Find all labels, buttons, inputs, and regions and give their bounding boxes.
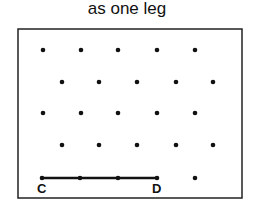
grid-dot (79, 111, 84, 116)
grid-dot (41, 48, 46, 53)
grid-dot (97, 80, 102, 85)
grid-frame (18, 29, 242, 198)
grid-dot (155, 48, 160, 53)
grid-dot (79, 48, 84, 53)
grid-dot (174, 80, 179, 85)
label-c: C (37, 181, 47, 196)
grid-dot (41, 111, 46, 116)
grid-dot (135, 80, 140, 85)
grid-dots (40, 48, 216, 181)
grid-dot (211, 143, 216, 148)
grid-dot (211, 80, 216, 85)
grid-dot (135, 143, 140, 148)
dot-grid-diagram: C D (0, 0, 254, 214)
grid-dot (193, 111, 198, 116)
grid-dot (193, 176, 198, 181)
grid-dot (174, 143, 179, 148)
grid-dot (155, 111, 160, 116)
label-d: D (152, 181, 161, 196)
grid-dot (116, 111, 121, 116)
grid-dot (97, 143, 102, 148)
grid-dot (193, 48, 198, 53)
grid-dot (60, 143, 65, 148)
grid-dot (116, 48, 121, 53)
grid-dot (60, 80, 65, 85)
